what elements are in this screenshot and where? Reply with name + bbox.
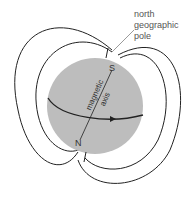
earth-sphere xyxy=(47,58,143,154)
label-pole: pole xyxy=(134,31,151,41)
diagram-canvas: north geographic pole magnetic axis S N xyxy=(0,0,190,197)
pole-s-label: S xyxy=(109,63,115,73)
label-geographic: geographic xyxy=(134,20,179,30)
geographic-axis-top xyxy=(106,48,108,58)
label-north: north xyxy=(134,9,155,19)
label-pointer xyxy=(112,30,134,52)
pole-n-label: N xyxy=(75,138,82,148)
geographic-axis-bottom xyxy=(84,152,86,162)
